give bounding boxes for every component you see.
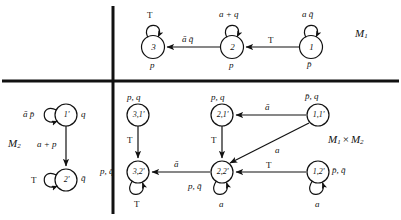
product-state-1-1prime-output: p̄, q: [305, 92, 319, 101]
product-state-1-2prime-label: 1,2': [310, 168, 327, 176]
m1-title-letter: M: [355, 27, 364, 39]
product-state-2-1prime-output: p, q: [211, 93, 225, 102]
product-state-3-2prime-label: 3,2': [130, 168, 147, 176]
product-state-1-1prime-label: 1,1': [310, 111, 327, 119]
product-state-3-2prime-selfloop-label: T: [134, 200, 140, 209]
product-edge-11p-to-22p-label: a: [275, 146, 280, 155]
m1-state-3-output: p: [150, 61, 155, 70]
product-state-3-2prime-output: p, q̄: [100, 167, 114, 176]
m2-title-subscript: 2: [17, 142, 21, 150]
m1-state-1-output: p̄: [307, 60, 312, 69]
product-title-right-subscript: 2: [360, 138, 364, 146]
m1-title-subscript: 1: [364, 32, 368, 40]
product-title: M1×M2: [328, 134, 364, 146]
m2-state-1prime-output: q: [81, 110, 86, 119]
product-edge-21p-to-22p-label: T: [211, 136, 217, 145]
product-edge-11p-to-21p-label: ā: [265, 103, 270, 112]
m2-state-2prime-selfloop-label: T: [31, 176, 37, 185]
product-title-left-letter: M: [328, 133, 337, 145]
product-title-right-letter: M: [351, 133, 360, 145]
m2-state-2prime-output: q̄: [81, 174, 86, 183]
product-state-2-1prime-label: 2,1': [214, 111, 231, 119]
m1-state-2-label: 2: [227, 43, 238, 52]
m2-title-letter: M: [8, 137, 17, 149]
product-edge-31p-to-32p-label: T: [127, 136, 133, 145]
product-state-2-2prime-label: 2,2': [214, 168, 231, 176]
m2-state-2prime-label: 2': [60, 176, 73, 184]
m1-state-1-selfloop-label: a q̄: [302, 10, 313, 19]
m1-state-1-label: 1: [306, 43, 317, 52]
m2-title: M2: [8, 138, 21, 150]
product-state-2-2prime-output: p, q̄: [188, 182, 202, 191]
figure-root: 3 2 1 p p p̄ T a + q a q̄ ā q̄ T M1 1' …: [0, 0, 401, 220]
m1-state-3-selfloop-label: T: [147, 11, 153, 20]
product-state-1-2prime-output: p̄, q̄: [332, 166, 346, 175]
m2-edge-1prime-to-2prime-label: a + p: [37, 140, 57, 149]
m2-state-1prime-label: 1': [60, 111, 73, 119]
product-state-1-2prime-selfloop-label: a: [315, 200, 320, 209]
m1-state-2-selfloop-label: a + q: [219, 10, 239, 19]
product-edge-11p-to-22p: [230, 123, 309, 163]
m1-state-2-output: p: [229, 61, 234, 70]
product-state-3-1prime-label: 3,1': [130, 111, 147, 119]
product-edge-22p-to-32p-label: ā: [174, 160, 179, 169]
product-title-times: ×: [341, 133, 351, 145]
product-edge-12p-to-22p-label: T: [266, 161, 272, 170]
m1-title: M1: [355, 28, 368, 40]
product-state-3-1prime-output: p, q: [127, 93, 141, 102]
m2-state-1prime-selfloop-label: ā p̄: [23, 110, 34, 119]
m1-edge-2-to-3-label: ā q̄: [182, 35, 193, 44]
m1-edge-1-to-2-label: T: [268, 36, 274, 45]
product-state-2-2prime-selfloop-label: a: [219, 200, 224, 209]
m1-state-3-label: 3: [148, 43, 159, 52]
